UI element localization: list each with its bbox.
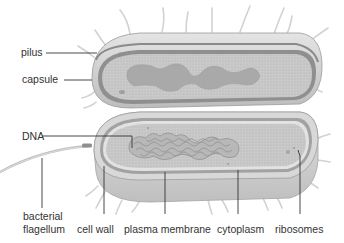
- label-bacterial-flagellum-line1: bacterial: [23, 211, 63, 222]
- top-half-cell: [92, 33, 322, 108]
- label-dna: DNA: [22, 131, 44, 142]
- label-cytoplasm: cytoplasm: [217, 224, 264, 235]
- label-pilus: pilus: [21, 47, 43, 58]
- flagellum: [0, 144, 92, 173]
- label-bacterial-flagellum-line2: flagellum: [23, 224, 65, 235]
- label-ribosomes: ribosomes: [275, 224, 323, 235]
- bottom-half-cell: [94, 112, 318, 202]
- label-plasma-membrane: plasma membrane: [124, 224, 211, 235]
- bacterial-cell-illustration: [0, 0, 344, 243]
- label-cell-wall: cell wall: [77, 224, 114, 235]
- label-capsule: capsule: [22, 74, 58, 85]
